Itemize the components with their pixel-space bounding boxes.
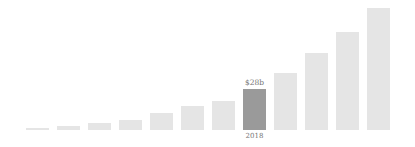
- bar: [274, 73, 297, 130]
- bar: [212, 101, 235, 130]
- bar-group: $28b2018: [26, 8, 390, 130]
- bar: [150, 113, 173, 130]
- bar: [26, 128, 49, 131]
- bar: [57, 126, 80, 131]
- year-label: 2018: [246, 133, 264, 140]
- bar: [305, 53, 328, 130]
- bar-2018-highlighted: $28b2018: [243, 89, 266, 130]
- bar: [181, 106, 204, 130]
- bar: [367, 8, 390, 130]
- value-label: $28b: [245, 79, 264, 87]
- bar: [119, 120, 142, 130]
- bar: [88, 123, 111, 130]
- bar-chart: $28b2018: [0, 0, 415, 147]
- bar: [336, 32, 359, 130]
